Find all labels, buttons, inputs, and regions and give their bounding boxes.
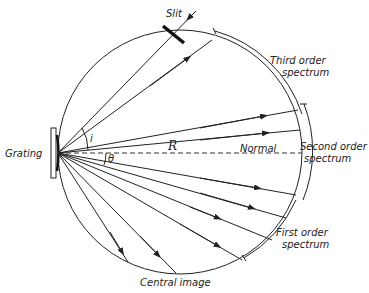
rowland-circle-diagram: Slit Grating R Normal i θ Third order sp… (0, 0, 369, 293)
third-order-label-1: Third order (270, 55, 327, 66)
lower-ray (58, 153, 128, 262)
second-order-bracket (303, 104, 313, 200)
ray-arrow (200, 178, 258, 188)
slit-label: Slit (166, 8, 183, 19)
radius-label: R (167, 139, 177, 153)
second-order-label-1: Second order (300, 141, 368, 152)
angle-theta-label: θ (108, 153, 114, 164)
ray-arrow (200, 116, 264, 128)
first-order-ray-3 (58, 153, 272, 240)
ray-arrow (190, 207, 218, 218)
first-order-label-1: First order (276, 227, 329, 238)
ray-arrow (150, 58, 188, 86)
first-order-label-2: spectrum (282, 239, 330, 250)
third-order-ray (58, 40, 212, 153)
central-image-label: Central image (140, 277, 211, 288)
third-order-label-2: spectrum (282, 67, 330, 78)
grating-label: Grating (5, 148, 42, 159)
slit-icon (163, 26, 184, 43)
ray-arrow (200, 133, 266, 140)
normal-label: Normal (240, 143, 277, 154)
second-order-label-2: spectrum (304, 153, 352, 164)
ray-arrow (140, 236, 158, 255)
angle-theta-arc (104, 153, 106, 165)
grating-plate (51, 128, 56, 178)
angle-i-label: i (90, 133, 93, 144)
incident-arrow (189, 11, 196, 18)
ray-arrow (180, 224, 218, 246)
ray-arrow (110, 232, 122, 252)
ray-arrow (200, 193, 252, 208)
